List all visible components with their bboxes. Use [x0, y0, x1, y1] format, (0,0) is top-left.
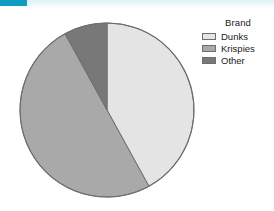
legend-label-dunks: Dunks	[221, 31, 248, 42]
legend: Brand Dunks Krispies Other	[202, 17, 274, 67]
legend-swatch-dunks	[202, 33, 216, 40]
legend-title: Brand	[206, 17, 270, 28]
pie-svg	[14, 17, 200, 203]
legend-item-krispies[interactable]: Krispies	[202, 43, 274, 54]
pie-slice-group	[20, 23, 194, 197]
legend-swatch-krispies	[202, 45, 216, 52]
legend-label-other: Other	[221, 55, 245, 66]
legend-label-krispies: Krispies	[221, 43, 255, 54]
legend-item-other[interactable]: Other	[202, 55, 274, 66]
legend-swatch-other	[202, 57, 216, 64]
top-banner	[0, 0, 274, 9]
legend-item-dunks[interactable]: Dunks	[202, 31, 274, 42]
banner-accent-block	[0, 0, 27, 6]
pie-figure	[14, 17, 200, 203]
pie-chart: Brand Dunks Krispies Other	[0, 9, 274, 211]
